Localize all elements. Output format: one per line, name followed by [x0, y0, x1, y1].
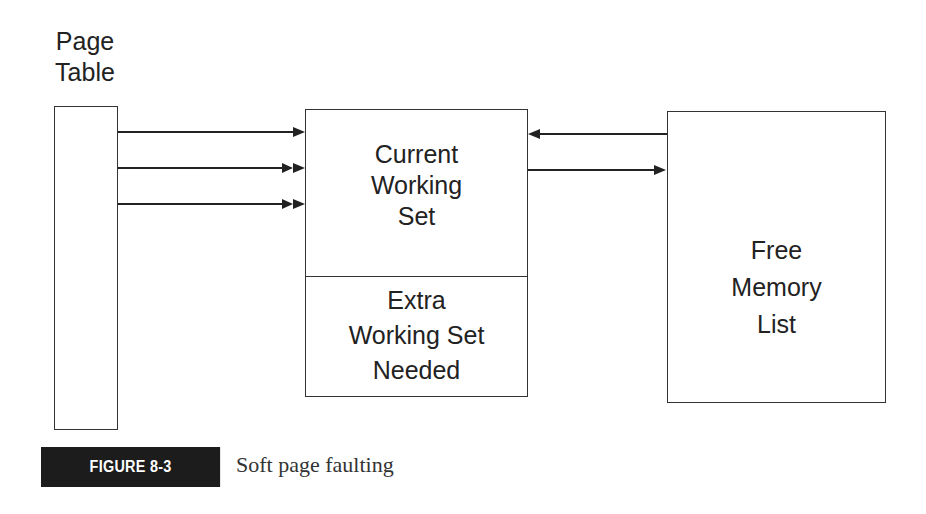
- arrow-page-table-to-working-set-3: [118, 199, 305, 209]
- arrows-layer: [0, 0, 926, 514]
- arrow-page-table-to-working-set-2: [118, 163, 305, 173]
- arrow-working-set-to-free-memory: [528, 165, 666, 175]
- arrow-free-memory-to-working-set: [528, 129, 667, 139]
- figure-caption: Soft page faulting: [236, 452, 394, 478]
- figure-label: FIGURE 8-3: [41, 447, 220, 487]
- arrow-page-table-to-working-set-1: [118, 127, 305, 137]
